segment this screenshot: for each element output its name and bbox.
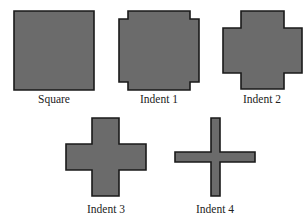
indent-3-label: Indent 3 <box>87 204 125 216</box>
indent-2-label: Indent 2 <box>243 94 281 106</box>
square-label: Square <box>38 94 70 106</box>
indent-shapes-figure: Square Indent 1 Indent 2 Indent 3 Indent… <box>0 0 308 220</box>
indent-4-label: Indent 4 <box>196 204 234 216</box>
shapes-layer <box>0 0 308 220</box>
indent-3-shape <box>66 118 146 196</box>
indent-1-label: Indent 1 <box>140 94 178 106</box>
indent-1-shape <box>119 11 199 90</box>
indent-2-shape <box>223 11 302 89</box>
indent-4-shape <box>175 118 255 196</box>
square-shape <box>14 11 94 90</box>
